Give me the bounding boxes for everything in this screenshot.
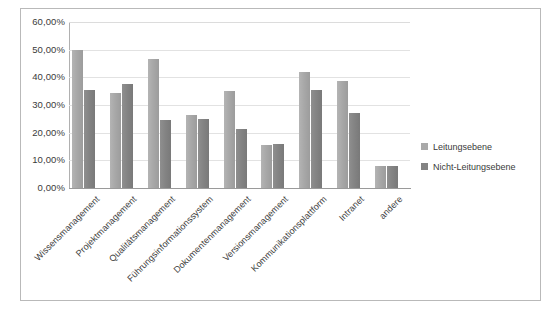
x-axis-tick-label: Versionsmanagement xyxy=(221,194,290,263)
plot-area xyxy=(69,22,410,188)
bar xyxy=(198,119,209,188)
legend-swatch-icon xyxy=(421,143,428,150)
bar-group xyxy=(258,22,296,188)
y-axis-tick-label: 0,00% xyxy=(3,183,65,193)
bar-group xyxy=(107,22,145,188)
bar xyxy=(72,50,83,188)
legend-item[interactable]: Nicht-Leitungsebene xyxy=(421,161,541,172)
y-axis-tick-label: 60,00% xyxy=(3,17,65,27)
bar-group xyxy=(221,22,259,188)
bar xyxy=(84,90,95,188)
bar xyxy=(224,91,235,188)
bar xyxy=(160,120,171,188)
x-axis-tick-label: Dokumentenmanagement xyxy=(172,194,253,275)
y-axis: 60,00%50,00%40,00%30,00%20,00%10,00%0,00… xyxy=(0,0,65,321)
legend-item[interactable]: Leitungsebene xyxy=(421,141,541,152)
bar xyxy=(387,166,398,188)
y-axis-tick-label: 10,00% xyxy=(3,155,65,165)
bar-group xyxy=(334,22,372,188)
x-axis-tick-label: Qualitätsmanagement xyxy=(107,194,177,264)
bar xyxy=(110,93,121,188)
bar xyxy=(299,72,310,188)
bar-group xyxy=(372,22,410,188)
y-axis-tick-label: 20,00% xyxy=(3,128,65,138)
y-axis-tick-label: 50,00% xyxy=(3,45,65,55)
legend-swatch-icon xyxy=(421,163,428,170)
bar-group xyxy=(183,22,221,188)
y-axis-tick-label: 30,00% xyxy=(3,100,65,110)
bar xyxy=(148,59,159,188)
bar xyxy=(337,81,348,188)
y-axis-tick-label: 40,00% xyxy=(3,72,65,82)
bar-group xyxy=(296,22,334,188)
chart-legend: LeitungsebeneNicht-Leitungsebene xyxy=(421,141,541,181)
bar xyxy=(273,144,284,188)
bar xyxy=(261,145,272,188)
bar xyxy=(349,113,360,188)
bar xyxy=(122,84,133,188)
bar xyxy=(236,129,247,188)
x-axis-tick-label: andere xyxy=(377,194,404,221)
bar-group xyxy=(69,22,107,188)
x-axis-tick-label: Kommunikationsplattform xyxy=(249,194,329,274)
bar-chart: 60,00%50,00%40,00%30,00%20,00%10,00%0,00… xyxy=(0,0,549,321)
bars xyxy=(69,22,410,188)
bar-group xyxy=(145,22,183,188)
x-axis: WissensmanagementProjektmanagementQualit… xyxy=(69,188,410,308)
bar xyxy=(375,166,386,188)
bar xyxy=(311,90,322,188)
legend-label: Leitungsebene xyxy=(433,142,492,152)
bar xyxy=(186,115,197,188)
x-axis-tick-label: Intranet xyxy=(337,194,366,223)
legend-label: Nicht-Leitungsebene xyxy=(433,162,516,172)
